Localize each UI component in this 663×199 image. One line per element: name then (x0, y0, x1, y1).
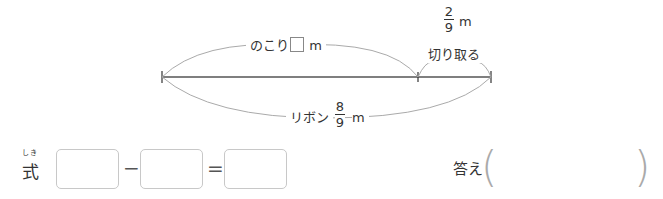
blank-box (290, 37, 304, 52)
remaining-unit: m (309, 38, 322, 53)
cut-fraction: 2 9 (444, 5, 454, 34)
answer-label: 答え (453, 157, 483, 178)
cut-denominator: 9 (445, 21, 453, 34)
equation-box-2[interactable] (140, 149, 203, 189)
cut-numerator: 2 (445, 5, 453, 18)
minus-sign: − (123, 156, 140, 180)
shiki-label: 式 (22, 158, 39, 183)
ribbon-label: リボン (286, 110, 333, 126)
ribbon-denominator: 9 (336, 116, 344, 129)
remaining-text: のこり (250, 38, 289, 53)
equation-box-1[interactable] (56, 149, 119, 189)
ribbon-fraction: 8 9 (335, 100, 345, 129)
ribbon-numerator: 8 (336, 100, 344, 113)
answer-field[interactable] (496, 150, 626, 190)
remaining-label: のこり m (246, 37, 326, 54)
cut-label: 切り取る (426, 47, 482, 63)
ribbon-unit: m (352, 110, 369, 125)
cut-unit: m (459, 14, 472, 29)
equation-box-3[interactable] (224, 149, 287, 189)
answer-open-paren: ( (481, 144, 497, 192)
shiki-ruby: しき (22, 147, 38, 157)
answer-close-paren: ) (634, 144, 650, 192)
equals-sign: = (207, 156, 224, 180)
